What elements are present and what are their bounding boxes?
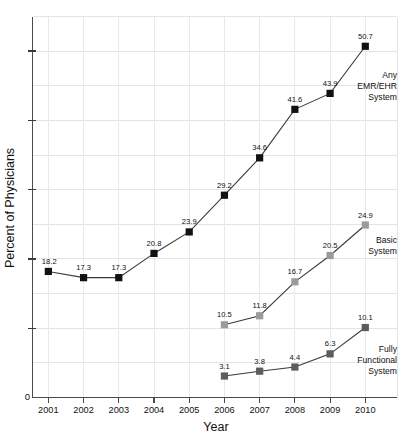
x-tick-label-2006: 2006 — [214, 405, 234, 415]
data-point-label: 34.6 — [252, 143, 267, 152]
x-tick-label-2004: 2004 — [144, 405, 164, 415]
axis-lines — [33, 17, 398, 399]
axis-ticks — [28, 51, 366, 402]
data-point-label: 10.1 — [358, 313, 373, 322]
series-fully-functional-system: 3.13.84.46.310.1 — [219, 313, 373, 380]
data-point-label: 11.8 — [253, 301, 267, 310]
data-point-label: 10.5 — [217, 310, 232, 319]
y-axis-title: Percent of Physicians — [3, 148, 17, 268]
data-point-marker — [326, 350, 333, 357]
vertical-gridlines — [48, 17, 365, 398]
data-point-marker — [256, 312, 263, 319]
x-tick-label-2009: 2009 — [320, 405, 340, 415]
data-point-label: 6.3 — [325, 339, 336, 348]
series-annotation-any-emr: Any EMR/EHR System — [357, 70, 397, 102]
data-point-marker — [221, 192, 228, 199]
data-point-label: 18.2 — [42, 257, 57, 266]
series-group: 18.217.317.320.823.929.234.641.643.950.7… — [42, 32, 373, 380]
data-point-marker — [256, 154, 263, 161]
data-point-label: 41.6 — [287, 95, 302, 104]
annot-fully-line1: Fully — [379, 344, 398, 354]
line-chart: 18.217.317.320.823.929.234.641.643.950.7… — [0, 0, 407, 438]
x-axis-title: Year — [203, 420, 228, 434]
data-point-marker — [362, 324, 369, 331]
data-point-label: 3.1 — [219, 362, 230, 371]
data-point-label: 50.7 — [358, 32, 373, 41]
annot-basic-line2: System — [368, 246, 397, 256]
annot-any-line2: EMR/EHR — [357, 81, 397, 91]
annot-basic-line1: Basic — [376, 235, 398, 245]
data-point-label: 3.8 — [254, 357, 265, 366]
annot-any-line3: System — [368, 92, 397, 102]
x-tick-label-2005: 2005 — [179, 405, 199, 415]
x-tick-label-2008: 2008 — [285, 405, 305, 415]
data-point-marker — [326, 90, 333, 97]
annot-fully-line2: Functional — [357, 355, 397, 365]
data-point-marker — [150, 250, 157, 257]
data-point-marker — [291, 106, 298, 113]
x-tick-label-2007: 2007 — [249, 405, 269, 415]
series-annotation-basic: Basic System — [368, 235, 397, 256]
series-line — [48, 46, 365, 277]
data-point-label: 43.9 — [323, 79, 338, 88]
y-zero-label: 0 — [25, 391, 30, 402]
data-point-label: 20.5 — [323, 241, 338, 250]
chart-container: 18.217.317.320.823.929.234.641.643.950.7… — [0, 0, 407, 438]
data-point-label: 17.3 — [111, 263, 126, 272]
data-point-label: 16.7 — [287, 267, 302, 276]
data-point-label: 20.8 — [147, 239, 162, 248]
data-point-marker — [80, 274, 87, 281]
x-tick-label-2002: 2002 — [73, 405, 93, 415]
x-tick-labels: 2001200220032004200520062007200820092010 — [38, 405, 375, 415]
data-point-marker — [45, 268, 52, 275]
data-point-marker — [256, 368, 263, 375]
data-point-marker — [221, 321, 228, 328]
data-point-label: 23.9 — [182, 217, 197, 226]
horizontal-gridlines — [33, 17, 398, 363]
annot-any-line1: Any — [382, 70, 398, 80]
data-point-marker — [221, 372, 228, 379]
annot-fully-line3: System — [368, 366, 397, 376]
data-point-marker — [291, 278, 298, 285]
data-point-marker — [326, 252, 333, 259]
data-point-label: 4.4 — [290, 353, 301, 362]
x-tick-label-2010: 2010 — [355, 405, 375, 415]
data-point-marker — [362, 43, 369, 50]
data-point-marker — [291, 363, 298, 370]
data-point-label: 29.2 — [217, 181, 232, 190]
data-point-label: 24.9 — [358, 211, 373, 220]
data-point-marker — [362, 221, 369, 228]
series-annotation-fully: Fully Functional System — [357, 344, 397, 376]
data-point-marker — [186, 228, 193, 235]
x-tick-label-2003: 2003 — [109, 405, 129, 415]
data-point-marker — [115, 274, 122, 281]
data-point-label: 17.3 — [76, 263, 91, 272]
x-tick-label-2001: 2001 — [38, 405, 58, 415]
